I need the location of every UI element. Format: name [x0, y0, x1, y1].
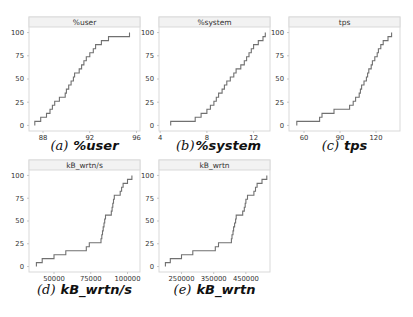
- y-tick-label: 50: [15, 75, 24, 83]
- caption-name: kB_wrtn/s: [61, 282, 133, 298]
- y-tick-label: 0: [150, 263, 154, 271]
- y-tick-label: 75: [15, 52, 24, 60]
- panel-caption: (a)%user: [50, 138, 120, 153]
- y-tick-label: 100: [271, 29, 284, 37]
- facet-title: %user: [73, 18, 97, 27]
- y-tick-label: 0: [20, 122, 24, 130]
- caption-name: kB_wrtn: [196, 282, 255, 298]
- y-tick-label: 25: [15, 240, 24, 248]
- y-tick-label: 100: [11, 172, 24, 180]
- chart-panel-5: kB_wrtn0255075100250000350000450000(e)kB…: [141, 160, 270, 298]
- plot-frame: [289, 17, 400, 131]
- x-tick-label: 120: [370, 134, 383, 142]
- y-tick-label: 25: [145, 99, 154, 107]
- caption-letter: (a): [50, 138, 68, 153]
- y-tick-label: 25: [275, 99, 284, 107]
- x-tick-label: 88: [39, 134, 48, 142]
- y-tick-label: 75: [15, 195, 24, 203]
- y-tick-label: 25: [145, 240, 154, 248]
- caption-letter: (b): [176, 138, 194, 153]
- caption-letter: (d): [37, 282, 55, 297]
- panel-caption: (b)%system: [176, 138, 261, 153]
- x-tick-label: 60: [300, 134, 309, 142]
- plot-frame: [159, 17, 270, 131]
- y-tick-label: 75: [145, 52, 154, 60]
- plot-frame: [29, 160, 140, 272]
- chart-panel-4: kB_wrtn/s02550751005000075000100000(d)kB…: [11, 160, 140, 298]
- caption-name: tps: [344, 138, 368, 153]
- x-tick-label: 96: [132, 134, 141, 142]
- x-tick-label: 4: [158, 134, 162, 142]
- chart-panel-3: tps02550751006090120(c)tps: [271, 17, 400, 153]
- y-tick-label: 100: [11, 29, 24, 37]
- y-tick-label: 75: [145, 195, 154, 203]
- y-tick-label: 100: [141, 172, 154, 180]
- y-tick-label: 25: [15, 99, 24, 107]
- caption-name: %user: [73, 138, 120, 153]
- caption-name: %system: [195, 138, 261, 153]
- y-tick-label: 50: [145, 217, 154, 225]
- chart-panel-1: %user0255075100889296(a)%user: [11, 17, 141, 153]
- panel-caption: (c)tps: [322, 138, 368, 153]
- facet-title: %system: [197, 18, 231, 27]
- y-tick-label: 0: [280, 122, 284, 130]
- caption-letter: (e): [174, 282, 192, 297]
- chart-panel-2: %system02550751004812(b)%system: [141, 17, 270, 153]
- caption-letter: (c): [322, 138, 339, 153]
- y-tick-label: 50: [15, 217, 24, 225]
- y-tick-label: 0: [20, 263, 24, 271]
- plot-frame: [29, 17, 140, 131]
- facet-title: tps: [339, 18, 351, 27]
- panel-caption: (e)kB_wrtn: [174, 282, 256, 298]
- y-tick-label: 75: [275, 52, 284, 60]
- y-tick-label: 50: [145, 75, 154, 83]
- figure: %user0255075100889296(a)%user%system0255…: [0, 0, 413, 317]
- plot-frame: [159, 160, 270, 272]
- panel-caption: (d)kB_wrtn/s: [37, 282, 132, 298]
- y-tick-label: 100: [141, 29, 154, 37]
- y-tick-label: 50: [275, 75, 284, 83]
- facet-title: kB_wrtn/s: [66, 161, 103, 170]
- y-tick-label: 0: [150, 122, 154, 130]
- facet-title: kB_wrtn: [199, 161, 229, 170]
